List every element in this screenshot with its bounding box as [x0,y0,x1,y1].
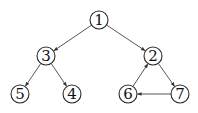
node-label: 7 [175,85,185,103]
edge-1-to-3 [54,25,92,51]
edge-6-to-2 [133,64,148,87]
node-label: 2 [148,47,158,65]
edge-3-to-5 [25,63,41,86]
node-6: 6 [119,85,137,103]
node-label: 6 [123,85,133,103]
node-label: 5 [15,85,25,103]
node-7: 7 [171,85,189,103]
node-4: 4 [63,85,81,103]
directed-graph: 1325467 [0,0,198,113]
node-5: 5 [11,85,29,103]
node-3: 3 [37,47,55,65]
edge-2-to-7 [158,63,174,86]
edge-1-to-2 [107,25,146,51]
nodes: 1325467 [11,11,189,103]
node-label: 3 [41,47,51,65]
node-1: 1 [90,11,108,29]
node-2: 2 [144,47,162,65]
node-label: 1 [94,11,104,29]
edge-3-to-4 [51,63,67,86]
node-label: 4 [67,85,77,103]
